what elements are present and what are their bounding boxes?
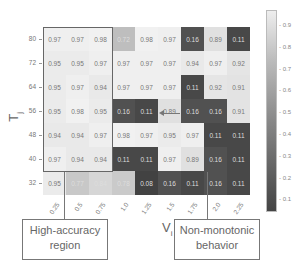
heatmap-cell: 0.11	[227, 147, 250, 171]
colorbar	[266, 10, 277, 212]
y-tick-mark	[39, 63, 42, 64]
heatmap-cell: 0.11	[227, 171, 250, 195]
heatmap-cell: 0.97	[112, 75, 135, 99]
colorbar-tick-label: - 0.7	[279, 66, 291, 72]
colorbar-tick-label: - 0.6	[279, 87, 291, 93]
heatmap-cell: 0.98	[135, 27, 158, 51]
heatmap-cell: 0.92	[204, 75, 227, 99]
heatmap-cell: 0.94	[181, 51, 204, 75]
heatmap-cell: 0.89	[204, 27, 227, 51]
colorbar-tick-label: - 0.8	[279, 44, 291, 50]
y-tick-label: 72	[14, 59, 36, 66]
annotation-high-accuracy-region: High-accuracyregion	[22, 219, 108, 260]
heatmap-chart: 0.970.970.980.720.980.970.160.890.110.95…	[0, 0, 302, 264]
heatmap-cell: 0.97	[158, 75, 181, 99]
heatmap-cell: 0.11	[181, 171, 204, 195]
arrow-head-icon	[159, 110, 164, 116]
heatmap-cell: 0.97	[204, 51, 227, 75]
heatmap-cell: 0.95	[43, 171, 66, 195]
heatmap-cell: 0.91	[227, 99, 250, 123]
heatmap-cell: 0.91	[227, 75, 250, 99]
y-tick-mark	[39, 111, 42, 112]
y-tick-mark	[39, 39, 42, 40]
heatmap-cell: 0.11	[181, 75, 204, 99]
x-tick-label: 1.0	[111, 201, 129, 223]
non-monotonic-arrow	[162, 113, 180, 114]
heatmap-cell: 0.11	[135, 99, 158, 123]
y-tick-mark	[39, 159, 42, 160]
colorbar-tick-label: - 0.2	[279, 175, 291, 181]
annotation-non-monotonic-behavior: Non-monotonicbehavior	[174, 219, 260, 260]
heatmap-cell: 0.11	[135, 147, 158, 171]
heatmap-cell: 0.78	[112, 171, 135, 195]
y-tick-label: 48	[14, 131, 36, 138]
heatmap-cell: 0.16	[158, 171, 181, 195]
heatmap-cell: 0.16	[204, 99, 227, 123]
y-tick-label: 40	[14, 155, 36, 162]
heatmap-cell: 0.97	[158, 51, 181, 75]
heatmap-cell: 0.16	[181, 99, 204, 123]
heatmap-cell: 0.98	[112, 123, 135, 147]
heatmap-cell: 0.11	[227, 27, 250, 51]
colorbar-tick-label: - 0.3	[279, 153, 291, 159]
colorbar-tick-label: - 0.9	[279, 22, 291, 28]
heatmap-cell: 0.95	[158, 123, 181, 147]
y-tick-label: 64	[14, 83, 36, 90]
heatmap-cell: 0.89	[181, 147, 204, 171]
y-tick-label: 80	[14, 35, 36, 42]
heatmap-cell: 0.08	[135, 171, 158, 195]
annotation-leader-left	[64, 172, 65, 220]
high-accuracy-region-box	[43, 27, 113, 172]
y-axis-label: Tj	[6, 112, 24, 122]
heatmap-cell: 0.97	[158, 27, 181, 51]
colorbar-tick-label: - 0.1	[279, 196, 291, 202]
heatmap-cell: 0.97	[135, 51, 158, 75]
heatmap-cell: 0.72	[112, 27, 135, 51]
colorbar-tick-label: - 0.5	[279, 109, 291, 115]
y-tick-label: 32	[14, 179, 36, 186]
heatmap-cell: 0.77	[66, 171, 89, 195]
heatmap-cell: 0.16	[181, 27, 204, 51]
y-tick-mark	[39, 135, 42, 136]
heatmap-cell: 0.16	[204, 147, 227, 171]
heatmap-cell: 0.97	[112, 51, 135, 75]
y-tick-mark	[39, 183, 42, 184]
colorbar-tick-label: - 0.4	[279, 131, 291, 137]
heatmap-cell: 0.11	[227, 123, 250, 147]
y-tick-mark	[39, 87, 42, 88]
heatmap-cell: 0.11	[112, 147, 135, 171]
heatmap-cell: 0.16	[112, 99, 135, 123]
heatmap-cell: 0.97	[158, 147, 181, 171]
heatmap-cell: 0.92	[227, 51, 250, 75]
annotation-leader-right	[207, 172, 208, 220]
x-tick-label: 1.25	[134, 201, 152, 223]
heatmap-cell: 0.97	[135, 123, 158, 147]
heatmap-cell: 0.84	[89, 171, 112, 195]
x-axis-label: Vi	[162, 220, 172, 238]
heatmap-cell: 0.97	[135, 75, 158, 99]
heatmap-cell: 0.97	[181, 123, 204, 147]
heatmap-cell: 0.11	[204, 123, 227, 147]
